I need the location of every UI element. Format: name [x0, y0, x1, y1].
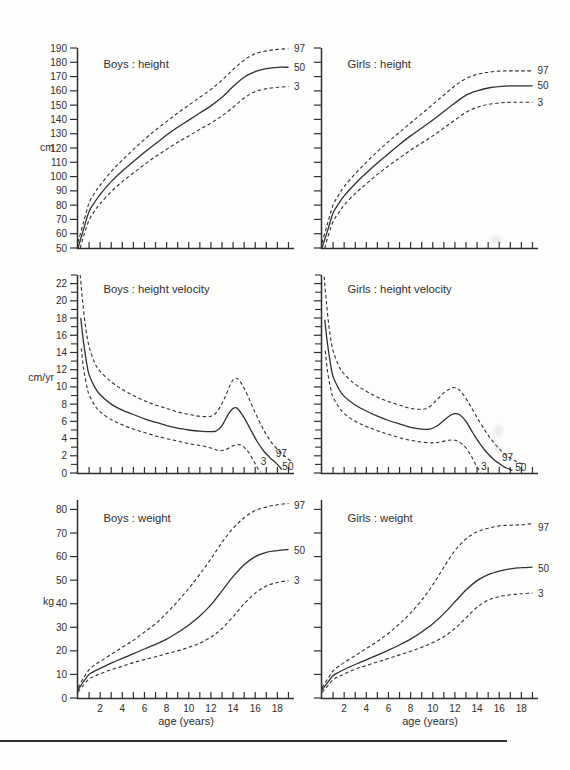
svg-text:Boys : weight: Boys : weight: [103, 512, 171, 524]
svg-text:8: 8: [61, 399, 67, 410]
svg-text:160: 160: [50, 85, 67, 96]
svg-text:50: 50: [537, 80, 549, 91]
svg-text:3: 3: [538, 588, 544, 599]
svg-text:150: 150: [50, 100, 67, 111]
svg-text:6: 6: [61, 416, 67, 427]
svg-text:2: 2: [61, 450, 67, 461]
scan-artifact: [494, 443, 502, 453]
svg-text:20: 20: [56, 645, 68, 656]
svg-text:4: 4: [364, 703, 370, 714]
svg-text:14: 14: [472, 703, 484, 714]
x-axis-title: age (years): [322, 715, 538, 727]
x-axis-title: age (years): [78, 715, 294, 727]
svg-text:0: 0: [61, 468, 67, 479]
svg-text:97: 97: [538, 522, 550, 533]
svg-text:190: 190: [50, 43, 67, 54]
svg-text:3: 3: [537, 97, 543, 108]
svg-text:Girls : height velocity: Girls : height velocity: [347, 283, 452, 295]
svg-text:4: 4: [61, 433, 67, 444]
svg-text:140: 140: [50, 114, 67, 125]
svg-text:180: 180: [50, 57, 67, 68]
chart-girls-height: Girls : height97503: [270, 36, 562, 262]
svg-text:14: 14: [228, 703, 240, 714]
y-axis-unit-label: kg: [43, 595, 54, 607]
svg-text:110: 110: [51, 157, 67, 168]
svg-text:130: 130: [50, 128, 67, 139]
svg-text:18: 18: [56, 313, 68, 324]
svg-text:2: 2: [97, 703, 103, 714]
svg-text:18: 18: [516, 703, 528, 714]
girls-height-canvas: Girls : height97503: [270, 36, 562, 262]
svg-text:22: 22: [56, 278, 68, 289]
svg-text:50: 50: [515, 462, 527, 473]
svg-text:60: 60: [56, 228, 68, 239]
svg-text:6: 6: [386, 703, 392, 714]
svg-text:100: 100: [50, 171, 67, 182]
svg-text:30: 30: [56, 622, 68, 633]
svg-text:90: 90: [56, 185, 68, 196]
y-axis-unit-label: cm: [40, 141, 54, 153]
svg-text:6: 6: [142, 703, 148, 714]
svg-text:3: 3: [261, 456, 267, 467]
girls-height-velocity-canvas: Girls : height velocity39750: [270, 266, 562, 484]
svg-text:Boys : height: Boys : height: [103, 58, 169, 70]
svg-text:50: 50: [538, 563, 550, 574]
svg-text:12: 12: [56, 364, 68, 375]
svg-text:97: 97: [502, 452, 514, 463]
chart-girls-weight: 24681012141618Girls : weight97503 age (y…: [270, 490, 562, 736]
svg-text:50: 50: [56, 243, 68, 254]
y-axis-unit-label: cm/yr: [28, 371, 54, 383]
svg-text:16: 16: [494, 703, 506, 714]
svg-text:170: 170: [50, 71, 67, 82]
svg-text:40: 40: [56, 598, 68, 609]
svg-text:12: 12: [205, 703, 217, 714]
svg-text:0: 0: [61, 693, 67, 704]
svg-text:10: 10: [183, 703, 195, 714]
growth-charts-figure: 5060708090100110120130140150160170180190…: [0, 0, 570, 770]
svg-text:Boys : height velocity: Boys : height velocity: [103, 283, 209, 295]
scan-artifact: [489, 236, 503, 244]
svg-text:80: 80: [56, 200, 68, 211]
svg-text:10: 10: [56, 669, 68, 680]
svg-text:97: 97: [537, 65, 549, 76]
svg-text:70: 70: [56, 528, 68, 539]
page-divider-rule: [0, 740, 507, 742]
svg-text:16: 16: [56, 330, 68, 341]
svg-text:Girls : weight: Girls : weight: [347, 512, 413, 524]
svg-text:80: 80: [56, 504, 68, 515]
svg-text:12: 12: [449, 703, 461, 714]
girls-weight-canvas: 24681012141618Girls : weight97503: [270, 490, 562, 736]
svg-text:4: 4: [120, 703, 126, 714]
svg-text:Girls : height: Girls : height: [347, 58, 411, 70]
scan-artifact: [494, 424, 503, 438]
svg-text:10: 10: [56, 381, 68, 392]
svg-text:60: 60: [56, 551, 68, 562]
svg-text:14: 14: [56, 347, 68, 358]
svg-text:20: 20: [56, 295, 68, 306]
svg-text:3: 3: [481, 461, 487, 472]
svg-text:2: 2: [341, 703, 347, 714]
svg-text:16: 16: [250, 703, 262, 714]
chart-girls-height-velocity: Girls : height velocity39750: [270, 266, 562, 484]
svg-text:50: 50: [56, 575, 68, 586]
svg-text:8: 8: [408, 703, 414, 714]
svg-text:70: 70: [56, 214, 68, 225]
svg-text:8: 8: [164, 703, 170, 714]
svg-text:10: 10: [427, 703, 439, 714]
